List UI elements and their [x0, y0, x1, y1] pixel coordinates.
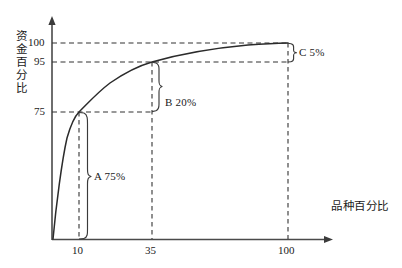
annotation-label-b: B 20%: [165, 97, 196, 108]
annotation-label-a: A 75%: [94, 171, 125, 182]
x-axis-title: 品种百分比: [331, 201, 389, 213]
brace-a: [84, 113, 91, 239]
pareto-curve: [53, 43, 288, 239]
brace-b: [156, 63, 162, 111]
x-tick-label-100: 100: [278, 245, 295, 256]
brace-b-caps: [152, 62, 156, 111]
y-tick-label-75: 75: [34, 106, 45, 117]
brace-c: [291, 44, 297, 62]
abc-analysis-chart: 资金百分比 品种百分比 100 95 75 10 35 100 A 75% B …: [0, 0, 402, 268]
y-tick-label-95: 95: [34, 56, 45, 67]
chart-canvas: [0, 0, 402, 268]
annotation-label-c: C 5%: [299, 47, 325, 58]
y-axis: [48, 16, 55, 240]
y-tick-label-100: 100: [28, 37, 45, 48]
brace-a-caps: [79, 113, 84, 240]
x-axis: [52, 236, 333, 243]
x-tick-label-10: 10: [72, 245, 83, 256]
y-axis-title: 资金百分比: [14, 30, 29, 94]
x-tick-label-35: 35: [145, 245, 156, 256]
